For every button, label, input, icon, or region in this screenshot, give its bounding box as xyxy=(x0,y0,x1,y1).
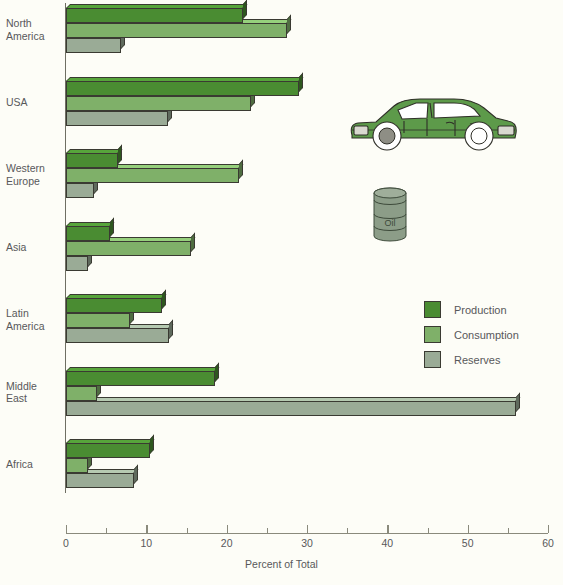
bar-side-face xyxy=(215,362,219,381)
bar-consumption-middle-east xyxy=(66,386,97,401)
axis-tick-minor xyxy=(187,528,188,533)
bar-side-face xyxy=(243,0,247,19)
bar-face xyxy=(66,328,169,343)
axis-tick-major xyxy=(468,525,469,533)
bar-face xyxy=(66,226,110,241)
axis-tick-minor xyxy=(347,528,348,533)
category-label: Asia xyxy=(6,241,62,254)
axis-tick-label: 40 xyxy=(372,537,402,549)
bar-face xyxy=(66,81,299,96)
bar-reserves-middle-east xyxy=(66,401,516,416)
bar-side-face xyxy=(110,217,114,236)
bar-production-north-america xyxy=(66,8,243,23)
category-label: Middle East xyxy=(6,380,62,405)
bar-face xyxy=(66,183,94,198)
bar-face xyxy=(66,386,97,401)
bar-face xyxy=(66,8,243,23)
axis-tick-label: 60 xyxy=(533,537,563,549)
bar-production-africa xyxy=(66,443,150,458)
bar-side-face xyxy=(516,392,520,411)
bar-consumption-africa xyxy=(66,458,88,473)
axis-tick-label: 10 xyxy=(131,537,161,549)
axis-tick-major xyxy=(66,525,67,533)
legend-swatch-consumption xyxy=(424,326,441,343)
axis-tick-label: 30 xyxy=(292,537,322,549)
legend-label-production: Production xyxy=(454,304,507,316)
legend-swatch-reserves xyxy=(424,351,441,368)
category-label: Africa xyxy=(6,458,62,471)
bar-consumption-western-europe xyxy=(66,168,239,183)
axis-title-percent-of-total: Percent of Total xyxy=(0,558,563,570)
bar-side-face xyxy=(118,145,122,164)
bar-face xyxy=(66,458,88,473)
axis-tick-minor xyxy=(508,528,509,533)
bar-side-face xyxy=(299,72,303,91)
bar-reserves-asia xyxy=(66,256,88,271)
bar-face xyxy=(66,168,239,183)
bar-face xyxy=(66,298,162,313)
axis-tick-label: 0 xyxy=(51,537,81,549)
category-label: Latin America xyxy=(6,307,62,332)
bar-side-face xyxy=(191,232,195,251)
legend-swatch-production xyxy=(424,301,441,318)
bar-side-face xyxy=(162,290,166,309)
bar-face xyxy=(66,401,516,416)
bar-reserves-africa xyxy=(66,473,134,488)
bar-face xyxy=(66,23,287,38)
category-label: Western Europe xyxy=(6,162,62,187)
bar-consumption-asia xyxy=(66,241,191,256)
bar-face xyxy=(66,241,191,256)
axis-tick-major xyxy=(146,525,147,533)
axis-tick-major xyxy=(307,525,308,533)
bar-face xyxy=(66,313,130,328)
axis-tick-minor xyxy=(267,528,268,533)
category-label: USA xyxy=(6,96,62,109)
bar-reserves-north-america xyxy=(66,38,121,53)
bar-side-face xyxy=(169,320,173,339)
axis-tick-minor xyxy=(428,528,429,533)
axis-tick-label: 20 xyxy=(212,537,242,549)
bar-reserves-latin-america xyxy=(66,328,169,343)
chart-figure: 0102030405060 Percent of Total Productio… xyxy=(0,0,563,585)
bar-production-middle-east xyxy=(66,371,215,386)
bar-production-western-europe xyxy=(66,153,118,168)
bar-reserves-western-europe xyxy=(66,183,94,198)
oil-barrel-label: Oil xyxy=(368,218,412,228)
axis-tick-minor xyxy=(106,528,107,533)
legend-item-consumption: Consumption xyxy=(424,322,519,347)
bar-face xyxy=(66,96,251,111)
bar-side-face xyxy=(239,160,243,179)
bar-reserves-usa xyxy=(66,111,168,126)
value-axis-line xyxy=(66,533,548,534)
bar-side-face xyxy=(150,435,154,454)
bar-face xyxy=(66,256,88,271)
axis-tick-major xyxy=(548,525,549,533)
bar-production-usa xyxy=(66,81,299,96)
bar-production-latin-america xyxy=(66,298,162,313)
axis-tick-major xyxy=(387,525,388,533)
chart-legend: Production Consumption Reserves xyxy=(424,297,519,372)
category-label: North America xyxy=(6,17,62,42)
legend-label-reserves: Reserves xyxy=(454,354,500,366)
axis-tick-label: 50 xyxy=(453,537,483,549)
legend-item-production: Production xyxy=(424,297,519,322)
oil-barrel-icon xyxy=(368,186,412,244)
bar-face xyxy=(66,38,121,53)
bar-face xyxy=(66,371,215,386)
bar-face xyxy=(66,443,150,458)
axis-tick-major xyxy=(227,525,228,533)
bar-face xyxy=(66,111,168,126)
green-sedan-car-icon xyxy=(342,88,522,160)
bar-face xyxy=(66,153,118,168)
bar-consumption-usa xyxy=(66,96,251,111)
bar-consumption-north-america xyxy=(66,23,287,38)
bar-production-asia xyxy=(66,226,110,241)
bar-side-face xyxy=(134,465,138,484)
bar-side-face xyxy=(287,15,291,34)
bar-consumption-latin-america xyxy=(66,313,130,328)
bar-face xyxy=(66,473,134,488)
legend-label-consumption: Consumption xyxy=(454,329,519,341)
legend-item-reserves: Reserves xyxy=(424,347,519,372)
